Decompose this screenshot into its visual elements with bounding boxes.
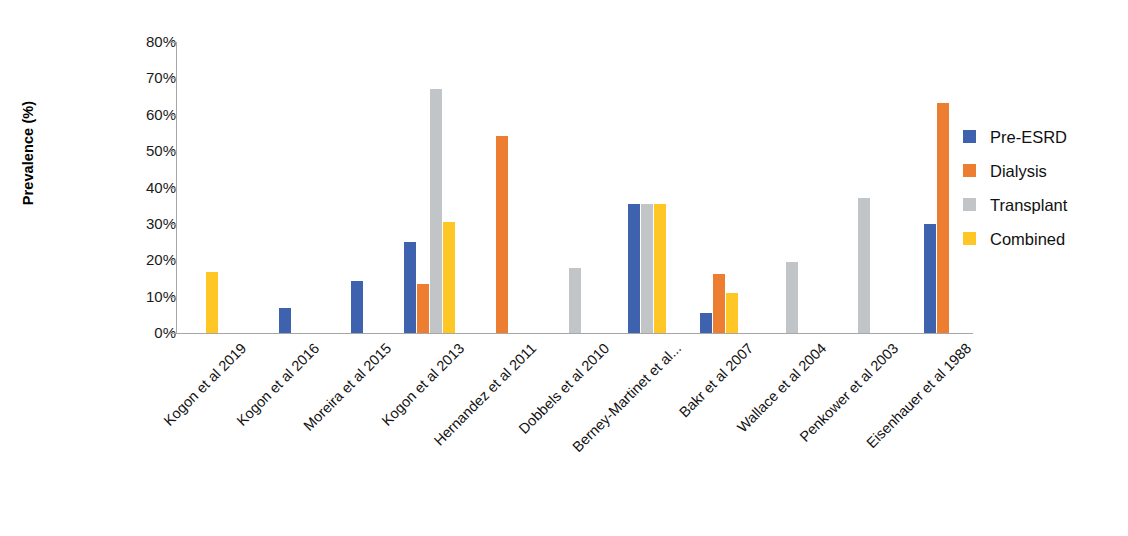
prevalence-bar-chart: Prevalence (%) 0%10%20%30%40%50%60%70%80…: [0, 0, 1128, 536]
y-tick-label-30: 30%: [86, 216, 176, 231]
legend-swatch-icon: [963, 198, 976, 211]
plot-area: [176, 42, 973, 333]
bar: [858, 198, 870, 333]
legend-label: Combined: [990, 230, 1065, 248]
legend-item: Dialysis: [963, 156, 1128, 185]
legend-swatch-icon: [963, 232, 976, 245]
bar: [654, 204, 666, 333]
bar: [443, 222, 455, 333]
y-tick-label-70: 70%: [86, 70, 176, 85]
y-tick-label-20: 20%: [86, 252, 176, 267]
bar: [496, 136, 508, 333]
bar: [430, 89, 442, 333]
legend-swatch-icon: [963, 130, 976, 143]
bar: [726, 293, 738, 333]
y-tick-label-40: 40%: [86, 180, 176, 195]
legend-label: Pre-ESRD: [990, 128, 1067, 146]
legend-item: Transplant: [963, 190, 1128, 219]
bar: [700, 313, 712, 333]
legend-item: Pre-ESRD: [963, 122, 1128, 151]
legend-swatch-icon: [963, 164, 976, 177]
y-tick-label-0: 0%: [86, 325, 176, 340]
bar: [417, 284, 429, 333]
bar: [404, 242, 416, 333]
bar: [713, 274, 725, 333]
legend-label: Transplant: [990, 196, 1067, 214]
x-axis-line: [176, 333, 973, 334]
bar: [786, 262, 798, 333]
legend-label: Dialysis: [990, 162, 1047, 180]
y-axis-ticks: 0%10%20%30%40%50%60%70%80%: [0, 42, 176, 334]
bar: [924, 224, 936, 333]
bar: [351, 281, 363, 333]
bar: [641, 204, 653, 333]
bar: [937, 103, 949, 333]
chart-legend: Pre-ESRDDialysisTransplantCombined: [963, 122, 1128, 258]
legend-item: Combined: [963, 224, 1128, 253]
y-tick-label-60: 60%: [86, 107, 176, 122]
bar: [628, 204, 640, 333]
y-tick-label-50: 50%: [86, 143, 176, 158]
y-tick-label-10: 10%: [86, 289, 176, 304]
bar: [279, 308, 291, 333]
y-tick-label-80: 80%: [86, 34, 176, 49]
bar: [569, 268, 581, 333]
bar: [206, 272, 218, 333]
